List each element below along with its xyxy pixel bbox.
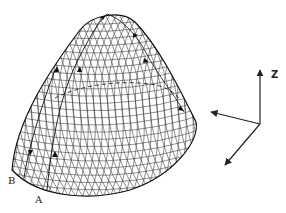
dashed-curve [55, 83, 180, 100]
surface-diagram [0, 0, 286, 213]
point-b-label: B [8, 175, 15, 186]
arrow-icon [143, 58, 149, 63]
curve-a [47, 14, 107, 190]
z-axis-label: Z [271, 69, 278, 80]
point-a-label: A [35, 194, 42, 205]
left-axis-arrow [211, 112, 260, 124]
axis-triad [211, 70, 260, 165]
down-axis-arrow [225, 124, 260, 165]
